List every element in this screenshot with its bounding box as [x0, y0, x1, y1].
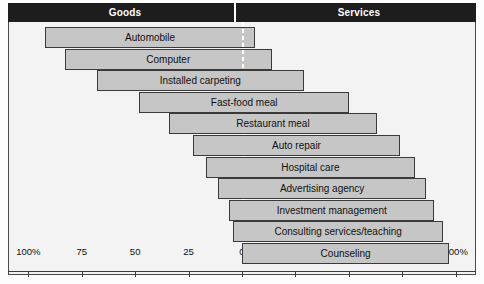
plot-area: AutomobileComputerInstalled carpetingFas…: [9, 22, 475, 264]
bar-fast-food-meal: Fast-food meal: [139, 92, 348, 113]
bar-label: Computer: [66, 50, 271, 69]
axis-tick-label: 25: [183, 246, 194, 257]
header-label-goods: Goods: [8, 3, 242, 22]
bar-investment-management: Investment management: [229, 200, 434, 221]
bar-label: Restaurant meal: [170, 114, 375, 133]
header-divider: [234, 3, 236, 22]
goods-services-continuum-chart: Goods Services AutomobileComputerInstall…: [0, 0, 484, 284]
bar-counseling: Counseling: [242, 243, 449, 264]
bar-label: Installed carpeting: [98, 71, 303, 90]
bar-label: Fast-food meal: [140, 93, 347, 112]
bar-label: Hospital care: [207, 158, 414, 177]
header-label-services: Services: [242, 3, 476, 22]
bar-consulting-services-teaching: Consulting services/teaching: [233, 221, 442, 242]
bar-label: Consulting services/teaching: [234, 222, 441, 241]
axis-tick: [28, 271, 29, 277]
bar-hospital-care: Hospital care: [206, 157, 415, 178]
axis-tick: [135, 271, 136, 277]
axis-tick-label: 50: [130, 246, 141, 257]
bar-installed-carpeting: Installed carpeting: [97, 70, 304, 91]
bar-computer: Computer: [65, 49, 272, 70]
bar-auto-repair: Auto repair: [193, 135, 400, 156]
axis-tick: [189, 271, 190, 277]
bar-label: Investment management: [230, 201, 433, 220]
axis-tick: [349, 271, 350, 277]
axis-tick: [295, 271, 296, 277]
x-axis: [8, 271, 476, 284]
bar-advertising-agency: Advertising agency: [218, 178, 425, 199]
axis-tick: [82, 271, 83, 277]
bar-label: Automobile: [46, 28, 253, 47]
bar-label: Advertising agency: [219, 179, 424, 198]
axis-tick: [242, 271, 243, 277]
axis-tick: [456, 271, 457, 277]
axis-tick-label: 100%: [16, 246, 40, 257]
bar-restaurant-meal: Restaurant meal: [169, 113, 376, 134]
axis-tick: [402, 271, 403, 277]
axis-tick-label: 75: [76, 246, 87, 257]
bar-label: Counseling: [243, 244, 448, 263]
header-band: Goods Services: [8, 3, 476, 22]
bar-automobile: Automobile: [45, 27, 254, 48]
bar-label: Auto repair: [194, 136, 399, 155]
